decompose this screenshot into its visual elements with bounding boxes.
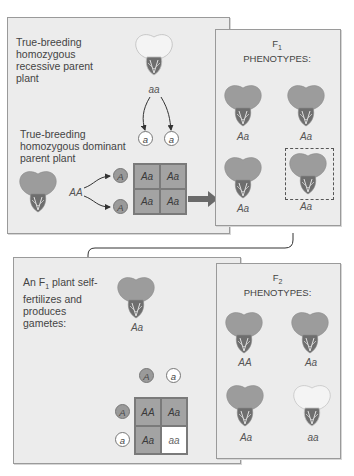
f2-flower-icon: [224, 311, 266, 357]
gamete-A-2: A: [113, 199, 128, 214]
gamete-a-2: a: [164, 131, 179, 146]
gamete-top-a: a: [166, 368, 181, 383]
f2-flower-icon-recessive: [292, 384, 334, 430]
f1-cross-label: An F1 plant self-fertilizes and produces…: [23, 276, 103, 329]
f1-flower-icon: [223, 156, 265, 202]
gamete-top-A: A: [139, 368, 154, 383]
f1-selfing-genotype: Aa: [117, 322, 157, 333]
f2-genotype: aa: [293, 432, 333, 443]
f1-genotype: Aa: [223, 203, 263, 214]
punnett-cell: Aa: [161, 398, 187, 426]
gamete-left-A: A: [115, 404, 130, 419]
punnett-cell: Aa: [160, 164, 186, 189]
punnett-cell: Aa: [135, 426, 161, 454]
f1-genotype: Aa: [286, 201, 326, 212]
f2-genotype: AA: [225, 357, 265, 368]
punnett-cell: Aa: [134, 164, 160, 189]
f1-flower-icon: [286, 84, 328, 130]
f2-genotype: Aa: [291, 357, 331, 368]
f1-flower-icon: [223, 84, 265, 130]
to-f1-arrow-icon: [188, 191, 218, 207]
f2-flower-icon: [290, 311, 332, 357]
f1-flower-icon-highlighted: [288, 152, 330, 198]
f2-genotype: Aa: [226, 432, 266, 443]
f1-genotype: Aa: [223, 131, 263, 142]
f1-selfing-flower-icon: [116, 276, 158, 322]
punnett-cell: aa: [161, 426, 187, 454]
f1-genotype: Aa: [286, 131, 326, 142]
gamete-left-a: a: [115, 432, 130, 447]
gamete-A-1: A: [113, 168, 128, 183]
punnett-cell: Aa: [160, 189, 186, 214]
f2-title: F2 PHENOTYPES:: [216, 272, 339, 298]
f1-punnett-square: AA Aa Aa aa: [134, 397, 188, 455]
p-punnett-square: Aa Aa Aa Aa: [133, 163, 187, 215]
f2-flower-icon: [225, 384, 267, 430]
gamete-a-1: a: [138, 131, 153, 146]
punnett-cell: AA: [135, 398, 161, 426]
punnett-cell: Aa: [134, 189, 160, 214]
f1-title: F1 PHENOTYPES:: [215, 38, 339, 64]
